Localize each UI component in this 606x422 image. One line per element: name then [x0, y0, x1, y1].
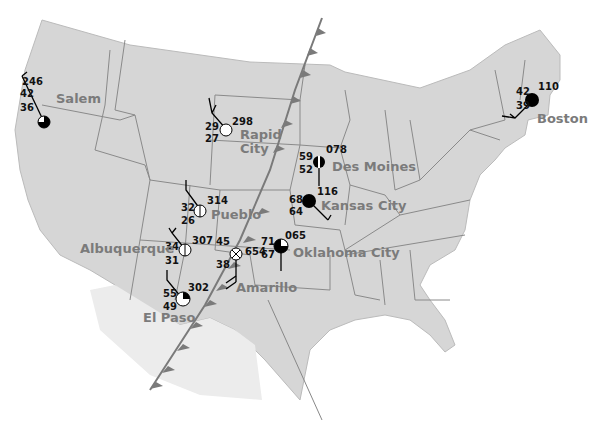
city-label-salem: Salem — [56, 92, 101, 106]
kansas-city-pressure: 116 — [317, 187, 338, 197]
city-label-des-moines: Des Moines — [332, 160, 416, 174]
des-moines-dewpoint: 52 — [299, 165, 313, 175]
amarillo-temperature: 45 — [216, 237, 230, 247]
us-map-graphic — [0, 0, 606, 422]
amarillo-dewpoint: 38 — [216, 260, 230, 270]
city-label-city: City — [240, 142, 269, 156]
salem-pressure: 246 — [22, 77, 43, 87]
albuquerque-dewpoint: 31 — [165, 256, 179, 266]
city-label-kansas-city: Kansas City — [321, 199, 407, 213]
pueblo-dewpoint: 26 — [181, 216, 195, 226]
salem-dewpoint: 36 — [20, 103, 34, 113]
city-label-rapid: Rapid — [240, 128, 282, 142]
pueblo-temperature: 32 — [181, 203, 195, 213]
rapid-city-temperature: 29 — [205, 122, 219, 132]
weather-map: 246 42 36 Salem 298 29 27 Rapid City 078… — [0, 0, 606, 422]
city-label-pueblo: Pueblo — [211, 208, 261, 222]
city-label-boston: Boston — [537, 112, 588, 126]
city-label-el-paso: El Paso — [143, 311, 195, 325]
kansas-city-dewpoint: 64 — [289, 207, 303, 217]
pueblo-pressure: 314 — [207, 196, 228, 206]
el-paso-temperature: 55 — [163, 289, 177, 299]
rapid-city-dewpoint: 27 — [205, 134, 219, 144]
des-moines-pressure: 078 — [326, 145, 347, 155]
el-paso-pressure: 302 — [188, 283, 209, 293]
rapid-city-pressure: 298 — [232, 117, 253, 127]
oklahoma-city-dewpoint: 67 — [261, 250, 275, 260]
city-label-albuquerque: Albuquerque — [80, 242, 174, 256]
des-moines-temperature: 59 — [299, 152, 313, 162]
oklahoma-city-pressure: 065 — [285, 231, 306, 241]
city-label-amarillo: Amarillo — [236, 281, 297, 295]
albuquerque-pressure: 307 — [192, 236, 213, 246]
oklahoma-city-temperature: 71 — [261, 237, 275, 247]
kansas-city-temperature: 68 — [289, 195, 303, 205]
city-label-oklahoma-city: Oklahoma City — [293, 246, 400, 260]
boston-dewpoint: 39 — [516, 101, 530, 111]
salem-temperature: 42 — [20, 89, 34, 99]
boston-temperature: 42 — [516, 87, 530, 97]
boston-pressure: 110 — [538, 82, 559, 92]
